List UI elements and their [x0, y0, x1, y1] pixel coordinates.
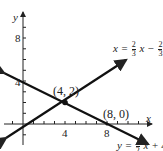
x-axis-label: x: [146, 113, 151, 124]
eq1-mid: x −: [140, 42, 155, 54]
graph-canvas: [0, 0, 163, 151]
x-tick-label-8: 8: [104, 128, 110, 139]
eq1-lhs: x =: [113, 42, 128, 54]
eq2-tail: x + 4: [144, 139, 163, 151]
eq2-frac: 12: [136, 138, 140, 151]
y-tick-label-8: 8: [15, 33, 21, 44]
eq1-frac2: 23: [158, 41, 162, 58]
intersection-label: (4, 2): [53, 85, 79, 97]
intersection-point: [62, 100, 68, 106]
equation-2-label: y = 12 x + 4: [117, 138, 163, 151]
eq2-lhs: y =: [117, 139, 132, 151]
x-tick-label-4: 4: [62, 128, 68, 139]
y-axis-label: y: [13, 12, 18, 23]
x-intercept-label: (8, 0): [103, 108, 129, 120]
x-intercept-point: [106, 123, 109, 126]
equation-1-label: x = 23 x − 23: [113, 41, 163, 58]
eq1-frac: 23: [132, 41, 136, 58]
y-tick-label-4: 4: [15, 77, 21, 88]
